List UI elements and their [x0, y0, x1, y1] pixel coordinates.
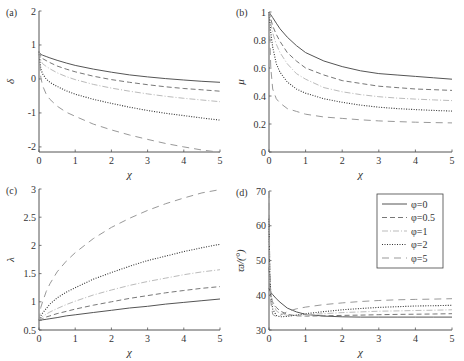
- x-tick-label: 4: [413, 333, 418, 344]
- x-tick-label: 5: [450, 155, 455, 166]
- y-tick-label: 50: [256, 255, 266, 266]
- y-tick-label: 1: [261, 7, 266, 18]
- series-line: [39, 52, 220, 83]
- x-tick-label: 0: [267, 155, 272, 166]
- x-tick-label: 1: [303, 333, 308, 344]
- y-tick-label: 0.5: [24, 325, 37, 336]
- legend-label: φ=0.5: [411, 212, 435, 223]
- y-tick-label: 70: [256, 186, 266, 197]
- y-axis-label: δ: [4, 78, 16, 84]
- x-axis-label: χ: [357, 168, 364, 180]
- panel-label: (c): [6, 185, 17, 197]
- x-tick-label: 5: [218, 155, 223, 166]
- y-tick-label: 1: [31, 39, 36, 50]
- y-tick-label: -1: [28, 107, 36, 118]
- series-line: [39, 52, 220, 153]
- x-tick-label: 3: [145, 333, 150, 344]
- panel-a: 012345-2-1012χδ(a): [4, 6, 223, 181]
- series-line: [269, 12, 452, 123]
- x-tick-label: 1: [73, 155, 78, 166]
- x-tick-label: 0: [37, 333, 42, 344]
- x-axis-label: χ: [126, 346, 133, 358]
- x-tick-label: 5: [218, 333, 223, 344]
- series-line: [39, 244, 220, 320]
- y-tick-label: 2: [31, 6, 36, 17]
- panel-label: (d): [236, 187, 248, 199]
- series-line: [39, 52, 220, 120]
- x-tick-label: 2: [109, 155, 114, 166]
- y-tick-label: 0: [31, 73, 36, 84]
- x-tick-label: 4: [181, 155, 186, 166]
- x-tick-label: 1: [303, 155, 308, 166]
- x-tick-label: 4: [181, 333, 186, 344]
- series-line: [39, 299, 220, 320]
- x-tick-label: 1: [73, 333, 78, 344]
- x-tick-label: 0: [37, 155, 42, 166]
- y-tick-label: 0.2: [254, 119, 267, 130]
- x-tick-label: 2: [340, 155, 345, 166]
- panel-c: 0123450.511.522.53χλ(c): [4, 184, 223, 359]
- x-tick-label: 2: [109, 333, 114, 344]
- x-tick-label: 3: [376, 155, 381, 166]
- x-tick-label: 3: [376, 333, 381, 344]
- y-tick-label: -2: [28, 141, 36, 152]
- y-tick-label: 40: [256, 290, 266, 301]
- y-axis-label: λ: [4, 257, 16, 263]
- series-line: [39, 270, 220, 321]
- series-line: [39, 52, 220, 91]
- legend-label: φ=2: [411, 239, 427, 250]
- x-tick-label: 2: [340, 333, 345, 344]
- y-tick-label: 3: [31, 184, 36, 195]
- legend-label: φ=5: [411, 253, 427, 264]
- y-tick-label: 1: [31, 296, 36, 307]
- y-axis-label: μ: [234, 79, 246, 86]
- y-tick-label: 0.4: [254, 91, 267, 102]
- series-line: [39, 52, 220, 102]
- panel-label: (a): [6, 7, 17, 19]
- x-tick-label: 0: [267, 333, 272, 344]
- panel-b: 01234500.20.40.60.81χμ(b): [234, 7, 455, 181]
- y-tick-label: 1.5: [24, 268, 37, 279]
- x-axis-label: χ: [357, 346, 364, 358]
- series-line: [269, 288, 452, 317]
- legend: φ=0φ=0.5φ=1φ=2φ=5: [377, 194, 443, 268]
- figure: 012345-2-1012χδ(a) 01234500.20.40.60.81χ…: [0, 0, 464, 361]
- panel-label: (b): [236, 7, 248, 19]
- x-tick-label: 3: [145, 155, 150, 166]
- y-tick-label: 2: [31, 240, 36, 251]
- series-line: [269, 12, 452, 90]
- series-line: [269, 12, 452, 101]
- legend-label: φ=0: [411, 199, 427, 210]
- x-tick-label: 4: [413, 155, 418, 166]
- x-tick-label: 5: [450, 333, 455, 344]
- y-axis-label: ϖ/(°): [234, 249, 247, 272]
- y-tick-label: 0: [261, 147, 266, 158]
- legend-label: φ=1: [411, 226, 427, 237]
- series-line: [39, 190, 220, 321]
- series-line: [269, 12, 452, 79]
- y-tick-label: 2.5: [24, 212, 37, 223]
- y-tick-label: 60: [256, 220, 266, 231]
- y-tick-label: 0.6: [254, 63, 267, 74]
- y-tick-label: 30: [256, 325, 266, 336]
- x-axis-label: χ: [126, 168, 133, 180]
- y-tick-label: 0.8: [254, 35, 267, 46]
